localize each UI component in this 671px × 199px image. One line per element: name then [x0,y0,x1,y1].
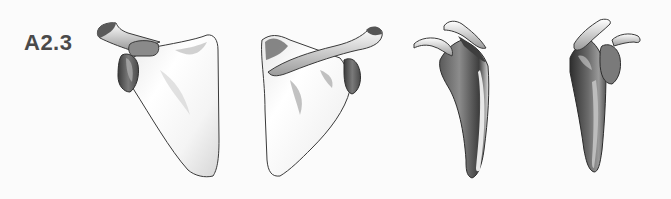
scapula-views [0,0,671,199]
scapula-view-1 [97,23,219,177]
scapula-view-4 [570,19,640,172]
scapula-figure: A2.3 [0,0,671,199]
scapula-view-3 [414,21,489,178]
scapula-view-2 [262,27,383,177]
